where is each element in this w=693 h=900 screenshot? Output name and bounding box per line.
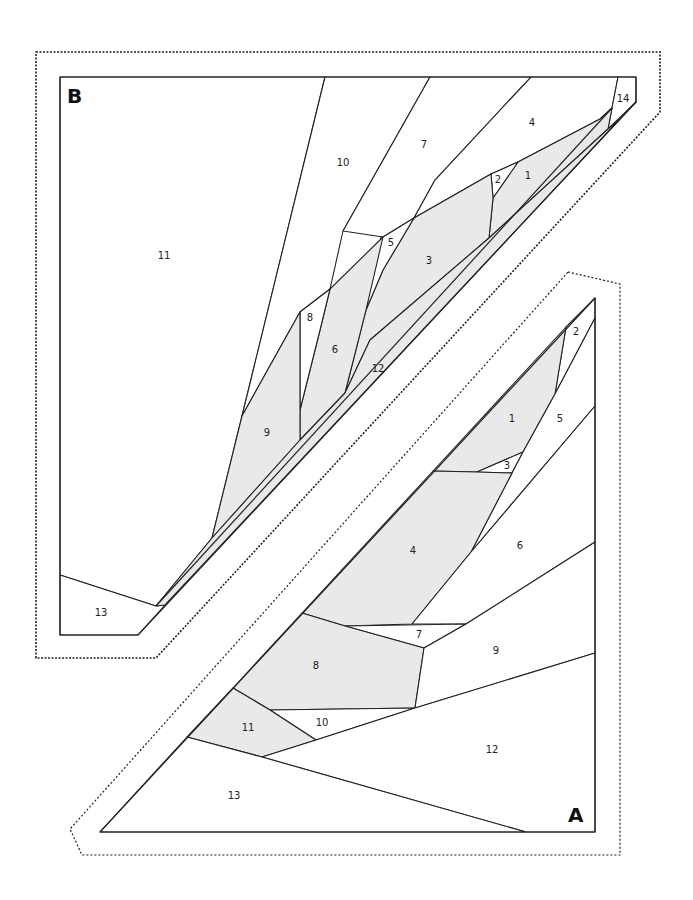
- section-a-number-5: 5: [557, 413, 563, 424]
- section-b-number-10: 10: [337, 157, 350, 168]
- section-b-number-4: 4: [529, 117, 535, 128]
- section-a-number-9: 9: [493, 645, 499, 656]
- section-b-number-8: 8: [307, 312, 313, 323]
- section-b-label: B: [67, 84, 82, 108]
- section-b-number-7: 7: [421, 139, 427, 150]
- section-a-number-10: 10: [316, 717, 329, 728]
- section-a-number-1: 1: [509, 413, 515, 424]
- section-a-number-2: 2: [573, 326, 579, 337]
- section-a-number-6: 6: [517, 540, 523, 551]
- section-a-number-8: 8: [313, 660, 319, 671]
- section-a-number-7: 7: [416, 629, 422, 640]
- section-b-number-12: 12: [372, 363, 385, 374]
- section-b-number-9: 9: [264, 427, 270, 438]
- section-a-number-12: 12: [486, 744, 499, 755]
- section-b-number-13: 13: [95, 607, 108, 618]
- section-a-number-11: 11: [242, 722, 255, 733]
- section-b-number-14: 14: [617, 93, 630, 104]
- section-b-number-5: 5: [388, 237, 394, 248]
- section-a-number-13: 13: [228, 790, 241, 801]
- pattern-canvas: B 1 2 3 4 5 6 7 8 9 10 11 12 13 14: [0, 0, 693, 900]
- section-a-label: A: [568, 803, 584, 827]
- section-a-number-3: 3: [504, 460, 510, 471]
- section-b-number-2: 2: [495, 174, 501, 185]
- section-b-number-6: 6: [332, 344, 338, 355]
- section-b-number-3: 3: [426, 255, 432, 266]
- section-a-number-4: 4: [410, 545, 416, 556]
- section-b-number-1: 1: [525, 170, 531, 181]
- section-b-number-11: 11: [158, 250, 171, 261]
